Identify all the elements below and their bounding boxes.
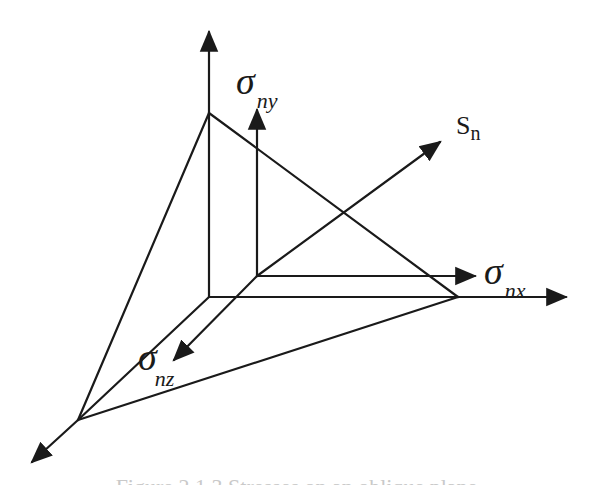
figure-caption: Figure 2.1.3 Stresses on an oblique plan… [0,474,593,485]
s-n-symbol: S [456,111,470,140]
sigma-nx-subscript: nx [505,278,526,303]
label-sigma-ny: σny [236,62,276,100]
sigma-ny-symbol: σ [236,60,255,102]
sn-vector [257,142,440,276]
label-sigma-nx: σnx [484,252,524,290]
sigma-nz-symbol: σ [138,336,157,378]
edge-top-to-right [209,113,458,297]
sigma-nx-symbol: σ [484,250,503,292]
sigma-nz-subscript: nz [155,366,175,391]
label-sigma-nz: σnz [138,338,176,376]
sigma-ny-subscript: ny [257,88,278,113]
diagram-canvas [0,0,593,485]
edge-z-to-right [78,297,458,420]
z-axis [32,420,78,462]
stress-tetrahedron-figure: σny Sn σnx σnz Figure 2.1.3 Stresses on … [0,0,593,485]
s-n-subscript: n [470,122,480,144]
label-s-n: Sn [456,113,480,139]
